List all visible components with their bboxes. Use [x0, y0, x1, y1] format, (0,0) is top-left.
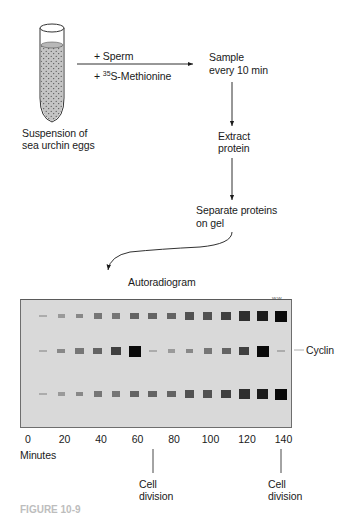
gel-band [94, 313, 102, 319]
gel-band [185, 390, 195, 398]
x-axis-tick: 60 [132, 433, 144, 445]
step-separate-line2: on gel [196, 217, 224, 230]
cell-division-label-1-line1: Cell [139, 478, 157, 491]
gel-band [129, 346, 141, 357]
gel-title: Autoradiogram [128, 276, 196, 289]
gel-band [58, 314, 65, 318]
gel-band [76, 314, 84, 319]
gel-band [93, 348, 102, 355]
tube-label-line2: sea urchin eggs [22, 139, 95, 152]
gel-band [168, 349, 175, 353]
step-sample-line2: every 10 min [209, 64, 268, 77]
gel-band [76, 392, 84, 397]
gel-band [185, 312, 195, 320]
addition-methionine: + 35S-Methionine [94, 68, 171, 83]
gel-band [275, 311, 287, 322]
gel-band [239, 347, 249, 356]
x-axis-label: Minutes [20, 449, 56, 462]
cell-division-label-2-line2: division [268, 490, 302, 503]
gel-band [111, 347, 121, 356]
arrow-gel-to-autoradiogram [108, 232, 232, 270]
gel-band [112, 313, 120, 319]
x-axis-tick: 120 [238, 433, 256, 445]
gel-band [239, 389, 250, 399]
x-axis-tick: 140 [275, 433, 293, 445]
cell-division-label-1-line2: division [139, 490, 173, 503]
gel-band [257, 389, 268, 400]
x-axis-tick: 0 [25, 433, 31, 445]
gel-band [75, 348, 83, 354]
cyclin-label: Cyclin [306, 344, 334, 357]
gel-band [203, 390, 213, 398]
gel-band [58, 392, 65, 396]
gel-band [130, 313, 139, 320]
gel-band [221, 390, 231, 399]
gel-band [57, 349, 65, 354]
gel-band [148, 391, 157, 398]
gel-band [130, 391, 139, 398]
step-extract-line2: protein [218, 142, 249, 155]
x-axis-tick: 20 [59, 433, 71, 445]
gel-band [39, 315, 47, 316]
cell-division-label-2-line1: Cell [268, 478, 286, 491]
gel-band [222, 348, 231, 355]
gel-band [186, 349, 194, 354]
gel-band [167, 313, 176, 320]
figure-label: FIGURE 10-9 [20, 504, 81, 515]
gel-band [167, 391, 176, 398]
gel-band [275, 389, 287, 400]
step-separate-line1: Separate proteins [196, 204, 277, 217]
x-axis-tick: 100 [202, 433, 220, 445]
gel-band [277, 350, 285, 351]
gel-band [112, 391, 120, 397]
gel-band [257, 346, 269, 357]
gel-band [39, 393, 47, 394]
gel-band [149, 350, 157, 351]
gel-band [94, 391, 102, 397]
gel-band [39, 350, 47, 351]
gel-band [148, 313, 157, 320]
step-sample-line1: Sample [209, 51, 244, 64]
gel-band [257, 311, 268, 322]
addition-sperm: + Sperm [94, 50, 133, 63]
gel-edge-mark: ᵂᵂ [272, 296, 283, 303]
autoradiogram-gel [20, 299, 292, 428]
test-tube-icon [40, 24, 64, 122]
gel-band [203, 312, 213, 320]
gel-band [204, 348, 212, 354]
x-axis-tick: 80 [168, 433, 180, 445]
gel-band [239, 311, 250, 321]
x-axis-tick: 40 [95, 433, 107, 445]
gel-band [221, 312, 231, 321]
step-extract-line1: Extract [218, 130, 250, 143]
tube-label-line1: Suspension of [22, 127, 87, 140]
